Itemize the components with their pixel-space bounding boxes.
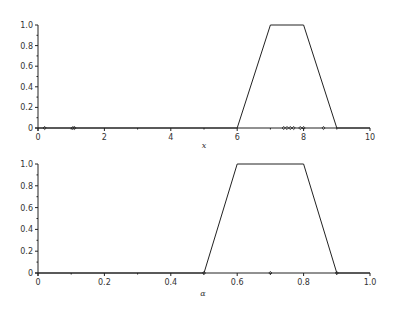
top-plot: 00.20.40.60.81.00246810x [20, 21, 375, 150]
x-tick-label: 0.2 [98, 278, 111, 287]
x-tick-label: 1.0 [364, 278, 377, 287]
membership-curve [38, 25, 370, 128]
x-tick-label: 0.4 [164, 278, 177, 287]
membership-curve [38, 164, 370, 273]
x-tick-label: 10 [365, 133, 375, 142]
y-tick-label: 0 [28, 269, 33, 278]
x-tick-label: 0.6 [231, 278, 244, 287]
y-tick-label: 0.6 [20, 204, 33, 213]
chart-canvas: 00.20.40.60.81.00246810x 00.20.40.60.81.… [0, 0, 394, 310]
x-axis-label: α [200, 289, 206, 298]
bottom-plot: 00.20.40.60.81.000.20.40.60.81.0α [20, 160, 376, 298]
y-tick-label: 0.4 [20, 225, 33, 234]
x-tick-label: 4 [168, 133, 173, 142]
x-axis-label: x [202, 141, 207, 150]
y-tick-label: 0.2 [20, 247, 33, 256]
y-tick-label: 1.0 [20, 21, 33, 30]
y-tick-label: 0.4 [20, 83, 33, 92]
y-tick-label: 0 [28, 124, 33, 133]
y-tick-label: 0.8 [20, 42, 33, 51]
x-tick-label: 0.8 [297, 278, 310, 287]
x-tick-label: 0 [35, 133, 40, 142]
x-tick-label: 6 [235, 133, 240, 142]
y-tick-label: 0.8 [20, 182, 33, 191]
x-tick-label: 0 [35, 278, 40, 287]
y-tick-label: 0.2 [20, 103, 33, 112]
y-tick-label: 0.6 [20, 62, 33, 71]
x-tick-label: 2 [102, 133, 107, 142]
x-tick-label: 8 [301, 133, 306, 142]
y-tick-label: 1.0 [20, 160, 33, 169]
